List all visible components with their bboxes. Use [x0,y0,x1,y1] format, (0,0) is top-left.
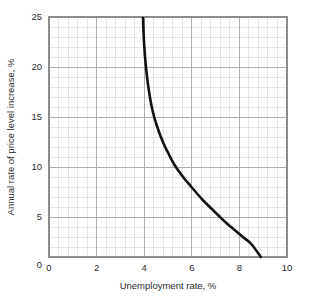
y-tick-label: 0 [37,259,42,270]
x-axis-title: Unemployment rate, % [120,280,217,291]
y-tick-label: 10 [31,161,42,172]
x-tick-label: 2 [94,262,99,273]
chart-canvas: 0246810 0510152025 Unemployment rate, % … [0,0,310,297]
y-tick-label: 20 [31,61,42,72]
x-tick-label: 4 [142,262,147,273]
x-tick-label: 10 [282,262,293,273]
phillips-curve-chart: 0246810 0510152025 Unemployment rate, % … [0,0,310,297]
y-tick-label: 15 [31,111,42,122]
x-tick-label: 8 [237,262,242,273]
y-axis-title: Annual rate of price level increase, % [5,58,16,215]
chart-background [0,0,310,297]
x-tick-label: 6 [189,262,194,273]
y-tick-label: 25 [31,11,42,22]
y-tick-label: 5 [37,211,42,222]
x-tick-label: 0 [46,262,51,273]
